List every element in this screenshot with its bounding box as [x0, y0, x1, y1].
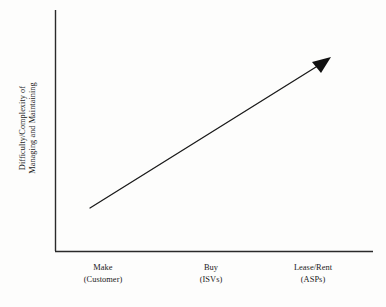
- x-tick-label-make-primary: Make: [48, 262, 158, 274]
- trend-line: [90, 62, 324, 208]
- trend-arrowhead-icon: [312, 57, 331, 73]
- y-axis-label: Difficulty/Complexity of Managing and Ma…: [8, 58, 48, 198]
- chart-figure: Difficulty/Complexity of Managing and Ma…: [0, 0, 386, 307]
- x-tick-label-make-secondary: (Customer): [48, 274, 158, 286]
- x-tick-label-buy-secondary: (ISVs): [156, 274, 266, 286]
- chart-canvas: [0, 0, 386, 307]
- x-tick-label-buy: Buy (ISVs): [156, 262, 266, 286]
- x-tick-label-buy-primary: Buy: [156, 262, 266, 274]
- x-tick-label-lease-rent-primary: Lease/Rent: [258, 262, 368, 274]
- x-tick-label-lease-rent-secondary: (ASPs): [258, 274, 368, 286]
- y-axis-label-line1: Difficulty/Complexity of: [18, 86, 28, 170]
- y-axis-label-line2: Managing and Maintaining: [28, 82, 38, 174]
- x-tick-label-lease-rent: Lease/Rent (ASPs): [258, 262, 368, 286]
- x-tick-label-make: Make (Customer): [48, 262, 158, 286]
